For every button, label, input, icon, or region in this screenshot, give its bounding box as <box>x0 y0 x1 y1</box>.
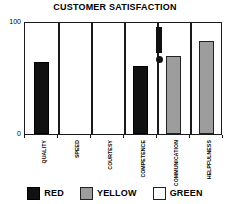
x-tick <box>24 135 25 138</box>
legend-item-green[interactable]: GREEN <box>153 187 203 200</box>
bar-helpfulness <box>199 41 214 134</box>
page-title: CUSTOMER SATISFACTION <box>0 2 230 12</box>
bar-quality <box>34 62 49 134</box>
legend-label-yellow: YELLOW <box>97 188 137 198</box>
x-tick <box>189 135 190 138</box>
category-separator <box>58 23 60 134</box>
x-axis-label-helpfulness: HELPFULNESS <box>206 140 212 179</box>
x-tick <box>222 135 223 138</box>
x-axis-label-competence: COMPETENCE <box>140 140 146 178</box>
x-axis-label-communication: COMMUNICATION <box>173 140 179 186</box>
plot-area <box>24 22 222 135</box>
category-separator <box>91 23 93 134</box>
bar-competence <box>133 66 148 134</box>
legend-item-red[interactable]: RED <box>27 187 64 200</box>
y-axis-tick-100: 100 <box>0 18 21 25</box>
exclamation-dot-icon <box>156 56 163 63</box>
x-axis-label-courtesy: COURTESY <box>107 140 113 170</box>
legend: REDYELLOWGREEN <box>0 184 230 202</box>
x-axis-label-quality: QUALITY <box>41 140 47 163</box>
exclamation-mark-annotation <box>156 27 162 63</box>
legend-swatch-green <box>153 187 166 200</box>
x-tick <box>90 135 91 138</box>
exclamation-stem-icon <box>156 27 162 53</box>
legend-label-red: RED <box>44 188 64 198</box>
legend-swatch-red <box>27 187 40 200</box>
category-separator <box>190 23 192 134</box>
x-tick <box>156 135 157 138</box>
x-axis-label-speed: SPEED <box>74 140 80 158</box>
x-tick <box>123 135 124 138</box>
legend-item-yellow[interactable]: YELLOW <box>80 187 137 200</box>
category-separator <box>124 23 126 134</box>
bar-communication <box>166 56 181 134</box>
y-axis-tick-0: 0 <box>0 130 21 137</box>
x-tick <box>57 135 58 138</box>
legend-label-green: GREEN <box>170 188 203 198</box>
legend-swatch-yellow <box>80 187 93 200</box>
